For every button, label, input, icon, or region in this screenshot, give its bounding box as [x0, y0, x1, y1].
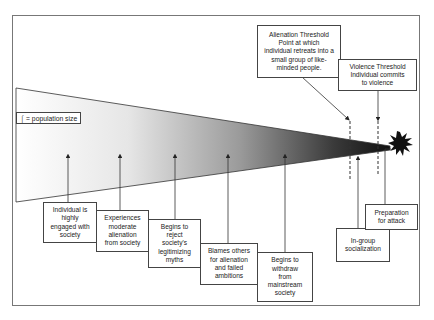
alienation-threshold-box: Alienation Threshold Point at which indi… [257, 25, 341, 78]
stage-text-moderate: Experiences moderate alienation from soc… [104, 214, 140, 247]
stage-text-engaged: Individual is highly engaged with societ… [50, 206, 89, 239]
stage-box-reject: Begins to reject society's legitimizing … [148, 219, 201, 268]
violence-threshold-box: Violence Threshold Individual commits to… [338, 59, 417, 91]
stage-text-withdraw: Begins to withdraw from mainstream socie… [268, 256, 302, 297]
stage-box-preparation: Preparation for attack [365, 204, 418, 230]
stage-text-preparation: Preparation for attack [374, 209, 408, 226]
legend-population-size: ⌠ = population size [16, 112, 81, 124]
stage-box-engaged: Individual is highly engaged with societ… [43, 202, 97, 243]
population-wedge [16, 88, 390, 202]
violence-threshold-text: Violence Threshold Individual commits to… [349, 63, 405, 88]
stage-text-blames: Blames others for alienation and failed … [208, 247, 250, 280]
stage-text-reject: Begins to reject society's legitimizing … [158, 223, 191, 264]
stage-box-withdraw: Begins to withdraw from mainstream socie… [257, 252, 313, 302]
stage-box-ingroup: In-group socialization [336, 228, 390, 262]
stage-box-blames: Blames others for alienation and failed … [200, 243, 258, 285]
stage-box-moderate: Experiences moderate alienation from soc… [96, 210, 149, 252]
attack-starburst-icon [388, 131, 413, 156]
stage-text-ingroup: In-group socialization [345, 237, 381, 254]
alienation-threshold-text: Alienation Threshold Point at which indi… [264, 31, 334, 72]
